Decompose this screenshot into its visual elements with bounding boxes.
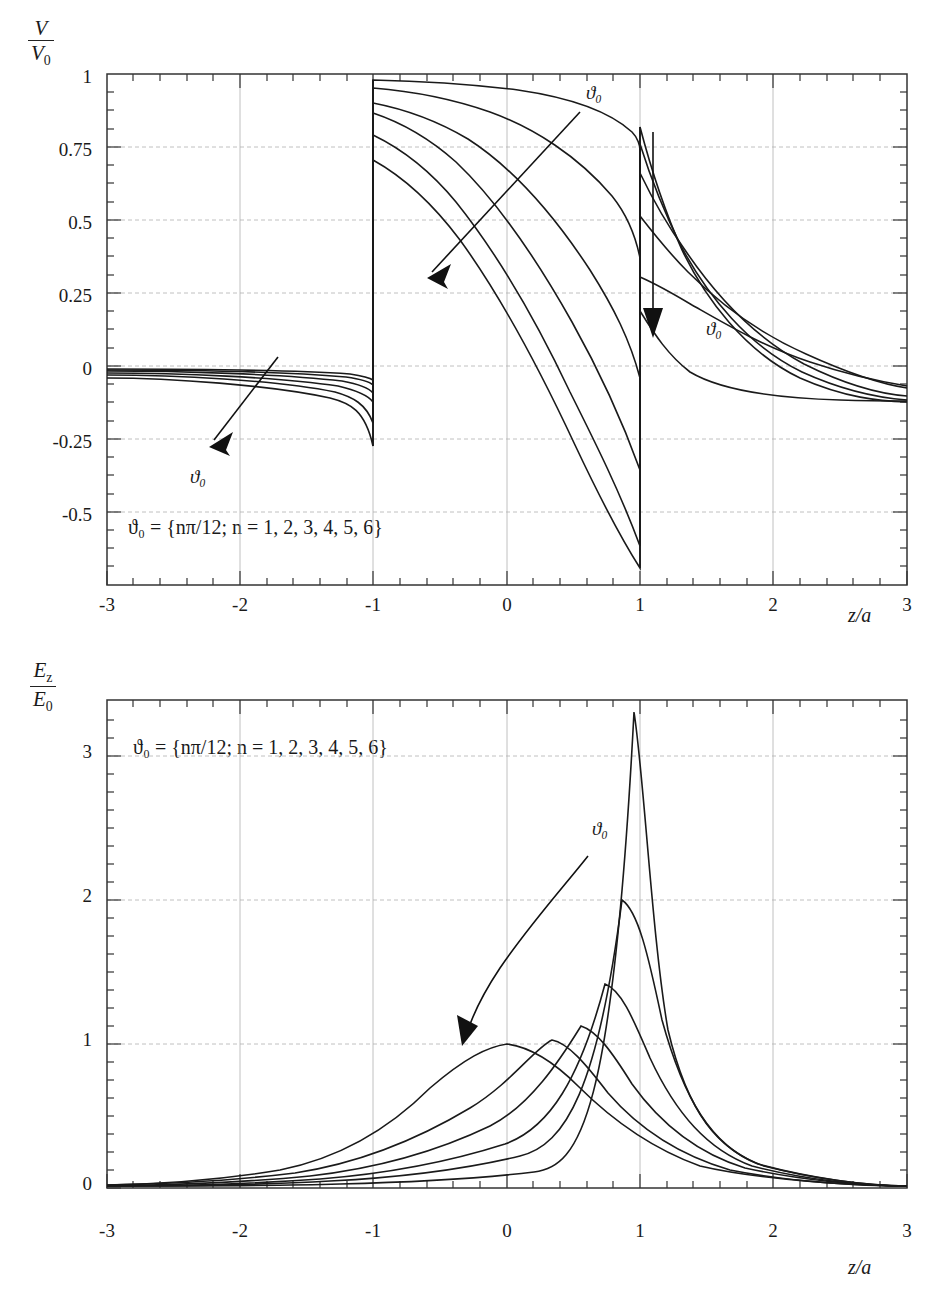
potential-arrow-interior-head xyxy=(427,264,451,289)
potential-arrow-jump-head xyxy=(643,308,663,338)
field-topaxis-ticks xyxy=(133,700,880,714)
field-rightaxis-ticks xyxy=(893,720,907,1170)
potential-arrow-interior-line xyxy=(432,112,580,272)
field-yaxis-ticks xyxy=(107,720,121,1188)
field-annotation-arrow xyxy=(457,856,588,1046)
potential-arrow-left-head xyxy=(209,432,233,456)
potential-plot-panel: V V0 1 0.75 0.5 0.25 0 -0.25 -0.5 -3 -2 … xyxy=(0,0,944,648)
field-gridlines-vertical xyxy=(240,700,773,1188)
potential-plot-svg xyxy=(0,0,944,648)
field-arrow-line xyxy=(468,856,588,1030)
potential-topaxis-ticks xyxy=(133,74,880,88)
field-plot-svg xyxy=(0,648,944,1308)
field-arrow-head xyxy=(457,1015,478,1046)
field-plot-panel: Ez E0 3 2 1 0 -3 -2 -1 0 1 2 3 z/a ϑ₀ = … xyxy=(0,648,944,1308)
potential-yaxis-ticks xyxy=(107,92,121,566)
potential-annotation-arrows xyxy=(209,112,663,456)
potential-rightaxis-ticks xyxy=(893,92,907,566)
potential-gridlines-vertical xyxy=(240,74,773,585)
physics-figure: V V0 1 0.75 0.5 0.25 0 -0.25 -0.5 -3 -2 … xyxy=(0,0,944,1308)
potential-xaxis-ticks xyxy=(107,571,907,585)
